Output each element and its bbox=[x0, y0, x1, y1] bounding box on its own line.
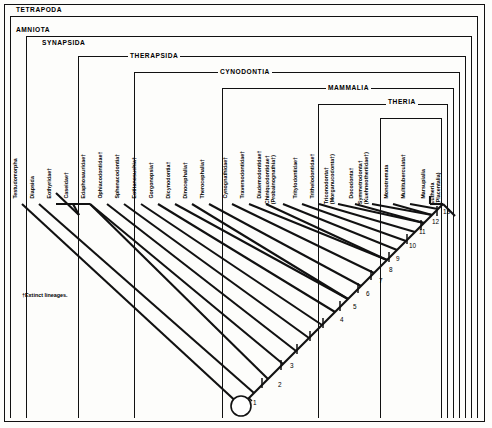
node-number-5: 5 bbox=[353, 303, 357, 310]
root-node-circle bbox=[231, 396, 251, 416]
branch-sphenacodontia bbox=[124, 204, 309, 338]
figure-canvas: TETRAPODA AMNIOTA SYNAPSIDA THERAPSIDA C… bbox=[0, 0, 492, 428]
cladogram-tree bbox=[0, 0, 492, 428]
node-number-10: 10 bbox=[409, 242, 416, 249]
node-number-1: 1 bbox=[253, 399, 257, 406]
node-number-7: 7 bbox=[379, 277, 383, 284]
branch-dinocephalia bbox=[192, 204, 348, 299]
extinct-footnote: †Extinct lineages. bbox=[22, 292, 68, 298]
node-number-8: 8 bbox=[389, 266, 393, 273]
node-number-11: 11 bbox=[419, 228, 426, 235]
node-number-9: 9 bbox=[396, 255, 400, 262]
node-number-6: 6 bbox=[366, 290, 370, 297]
node-number-12: 12 bbox=[432, 218, 439, 225]
node-number-2: 2 bbox=[278, 381, 282, 388]
node-number-3: 3 bbox=[290, 362, 294, 369]
branch-tritylodontidae bbox=[302, 204, 406, 241]
node-number-4: 4 bbox=[340, 316, 344, 323]
branch-diapsida bbox=[39, 204, 254, 393]
tree-spine bbox=[241, 204, 443, 406]
branch-ophiacodontidae bbox=[107, 204, 296, 351]
node-number-13: 13 bbox=[443, 208, 450, 215]
